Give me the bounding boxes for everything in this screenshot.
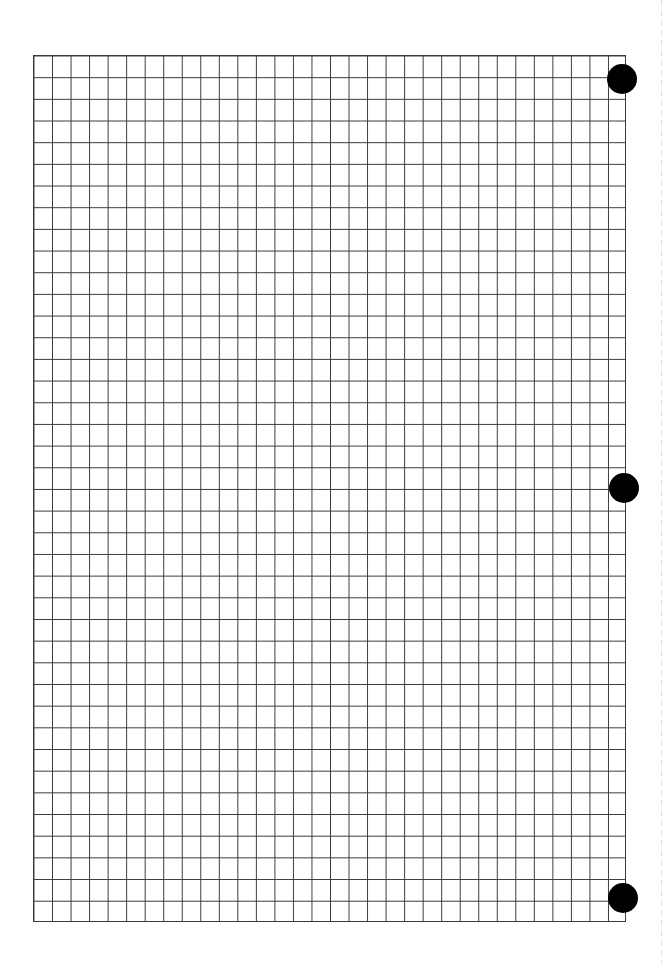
punch-hole-top: [607, 64, 637, 94]
perforation-line: [661, 0, 662, 964]
square-grid: [33, 55, 626, 922]
punch-hole-bottom: [608, 883, 638, 913]
graph-paper-sheet: Graph paper sheet: [0, 0, 672, 964]
punch-hole-middle: [609, 473, 639, 503]
